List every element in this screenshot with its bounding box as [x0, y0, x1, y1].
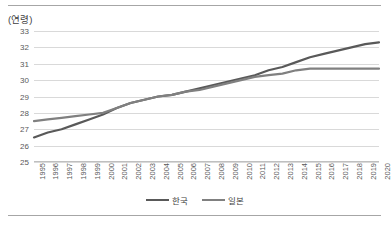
- x-axis-tick: 2004: [162, 163, 171, 180]
- x-axis-tick: 2008: [217, 163, 226, 180]
- x-axis-tick: 2010: [245, 163, 254, 180]
- bottom-divider-rule: [8, 215, 381, 216]
- legend-label: 한국: [172, 194, 188, 206]
- x-axis-tick: 2005: [176, 163, 185, 180]
- x-axis-tick: 2006: [189, 163, 198, 180]
- x-axis-tick: 2018: [355, 163, 364, 180]
- x-axis-tick: 1998: [79, 163, 88, 180]
- x-axis-tick: 2017: [341, 163, 350, 180]
- legend-label: 일본: [228, 194, 244, 206]
- x-axis-tick: 2007: [203, 163, 212, 180]
- y-axis-tick-labels: 333231302928272625: [0, 31, 34, 162]
- x-axis-tick: 2014: [300, 163, 309, 180]
- plot-area: [34, 31, 379, 162]
- y-axis-tick: 31: [20, 59, 29, 68]
- x-axis-tick: 2016: [327, 163, 336, 180]
- x-axis-tick: 1997: [65, 163, 74, 180]
- y-axis-tick: 28: [20, 108, 29, 117]
- x-axis-tick: 2020: [383, 163, 392, 180]
- x-axis-tick: 2019: [369, 163, 378, 180]
- y-axis-tick: 29: [20, 92, 29, 101]
- series-line-일본: [34, 69, 379, 121]
- legend-line-swatch: [146, 199, 169, 202]
- y-axis-tick: 26: [20, 141, 29, 150]
- chart-legend: 한국일본: [0, 194, 389, 206]
- y-axis-tick: 32: [20, 43, 29, 52]
- x-axis-tick: 2000: [107, 163, 116, 180]
- legend-item[interactable]: 일본: [202, 194, 244, 206]
- x-axis-tick: 1995: [38, 163, 47, 180]
- x-axis-tick: 2002: [134, 163, 143, 180]
- y-axis-tick: 30: [20, 76, 29, 85]
- y-axis-unit-label: (연령): [8, 12, 32, 26]
- x-axis-tick: 2015: [314, 163, 323, 180]
- x-axis-tick: 1999: [93, 163, 102, 180]
- top-divider-rule: [8, 5, 381, 6]
- y-axis-tick: 25: [20, 158, 29, 167]
- legend-item[interactable]: 한국: [146, 194, 188, 206]
- y-axis-tick: 33: [20, 27, 29, 36]
- y-axis-tick: 27: [20, 125, 29, 134]
- x-axis-tick: 2011: [258, 163, 267, 179]
- legend-line-swatch: [202, 199, 225, 202]
- series-lines: [34, 31, 379, 162]
- x-axis-tick: 2003: [148, 163, 157, 180]
- series-line-한국: [34, 42, 379, 137]
- x-axis-tick: 2013: [286, 163, 295, 180]
- x-axis-tick: 2009: [231, 163, 240, 180]
- x-axis-tick: 2001: [120, 163, 129, 180]
- x-axis-tick: 1996: [51, 163, 60, 180]
- x-axis-tick: 2012: [272, 163, 281, 180]
